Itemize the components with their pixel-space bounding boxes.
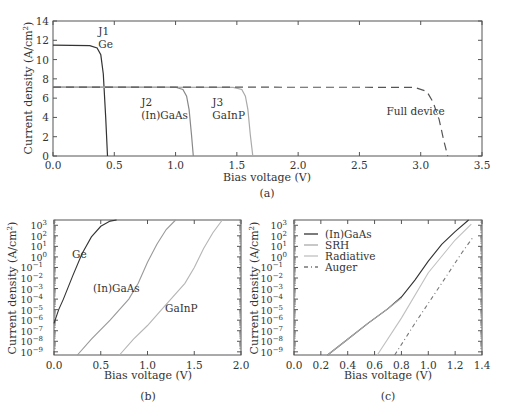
- svg-text:(In)GaAs: (In)GaAs: [93, 282, 140, 294]
- panel-a-caption: (a): [259, 187, 274, 200]
- panel-a-curves: [53, 45, 448, 156]
- panel-c-xlabel: Bias voltage (V): [344, 369, 432, 382]
- panel-c-ylabel: Current density (A/cm2): [248, 222, 261, 355]
- svg-text:6: 6: [42, 92, 49, 104]
- svg-text:0.0: 0.0: [286, 359, 303, 371]
- panel-a: 0.00.51.01.52.02.53.03.502468101214 J1Ge…: [22, 15, 490, 200]
- svg-text:4: 4: [42, 111, 49, 123]
- svg-text:1.0: 1.0: [167, 159, 184, 171]
- panel-a-xlabel: Bias voltage (V): [223, 171, 311, 184]
- svg-text:2.5: 2.5: [351, 159, 368, 171]
- panel-b-frame: [54, 220, 241, 355]
- panel-b-xlabel: Bias voltage (V): [104, 369, 192, 382]
- panel-a-annotations: J1GeJ2(In)GaAsJ3GaInPFull device: [97, 25, 444, 121]
- svg-text:2: 2: [42, 131, 49, 143]
- svg-text:12: 12: [36, 34, 49, 46]
- svg-text:GaInP: GaInP: [165, 302, 198, 314]
- svg-text:0.2: 0.2: [313, 359, 330, 371]
- figure: 0.00.51.01.52.02.53.03.502468101214 J1Ge…: [0, 0, 507, 412]
- svg-text:10: 10: [36, 54, 49, 66]
- svg-text:Ge: Ge: [72, 248, 87, 260]
- panel-b-ticks: 0.00.51.01.52.010310210110010−110−210−31…: [21, 219, 250, 371]
- panel-b: 0.00.51.01.52.010310210110010−110−210−31…: [6, 219, 249, 403]
- svg-text:8: 8: [42, 73, 49, 85]
- svg-text:GaInP: GaInP: [212, 109, 245, 121]
- svg-text:Ge: Ge: [98, 38, 113, 50]
- svg-text:1.2: 1.2: [447, 359, 464, 371]
- panel-c-frame: [294, 220, 482, 355]
- svg-text:1.5: 1.5: [229, 159, 246, 171]
- svg-text:2.0: 2.0: [233, 359, 250, 371]
- svg-text:3.0: 3.0: [412, 159, 429, 171]
- svg-text:J2: J2: [140, 96, 152, 108]
- panel-c-legend: (In)GaAsSRHRadiativeAuger: [304, 228, 375, 273]
- panel-a-ylabel: Current density (A/cm2): [22, 22, 35, 155]
- svg-text:Full device: Full device: [386, 105, 444, 117]
- panel-b-caption: (b): [140, 390, 156, 403]
- svg-text:0.0: 0.0: [46, 359, 63, 371]
- svg-text:J3: J3: [211, 96, 223, 108]
- panel-b-ylabel: Current density (A/cm2): [6, 222, 19, 355]
- svg-text:J1: J1: [97, 25, 109, 37]
- svg-text:2.0: 2.0: [290, 159, 307, 171]
- svg-text:10−9: 10−9: [261, 346, 283, 358]
- panel-c-ticks: 0.00.20.40.60.81.01.21.410310210110010−1…: [261, 219, 491, 371]
- svg-text:14: 14: [36, 15, 50, 27]
- panel-c: 0.00.20.40.60.81.01.21.410310210110010−1…: [248, 219, 491, 403]
- svg-text:Auger: Auger: [324, 261, 358, 273]
- svg-text:3.5: 3.5: [474, 159, 491, 171]
- panel-b-annotations: Ge(In)GaAsGaInP: [72, 248, 198, 314]
- panel-c-caption: (c): [381, 390, 396, 403]
- svg-text:1.4: 1.4: [474, 359, 491, 371]
- panel-c-curves: [328, 220, 473, 355]
- svg-text:0: 0: [42, 150, 49, 162]
- svg-text:(In)GaAs: (In)GaAs: [141, 109, 188, 121]
- svg-text:10−9: 10−9: [21, 346, 43, 358]
- svg-text:0.5: 0.5: [106, 159, 123, 171]
